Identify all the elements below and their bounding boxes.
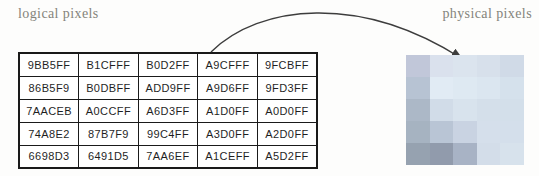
physical-pixel (477, 121, 501, 143)
pixel-value-cell: 6491D5 (79, 145, 139, 168)
physical-pixels-label: physical pixels (442, 6, 532, 22)
physical-pixel (430, 99, 454, 121)
pixel-value-cell: 99C4FF (138, 122, 198, 145)
physical-pixel (500, 121, 524, 143)
pixel-value-cell: 6698D3 (19, 145, 79, 168)
pixel-value-cell: 7AA6EF (138, 145, 198, 168)
table-row: 86B5F9B0DBFFADD9FFA9D6FF9FD3FF (19, 76, 317, 99)
table-row: 7AACEBA0CCFFA6D3FFA1D0FFA0D0FF (19, 99, 317, 122)
pixel-value-cell: A1D0FF (198, 99, 258, 122)
physical-pixel (406, 55, 430, 77)
logical-pixels-label: logical pixels (18, 6, 99, 22)
physical-pixel (453, 121, 477, 143)
physical-pixel (406, 121, 430, 143)
pixel-value-cell: ADD9FF (138, 76, 198, 99)
pixel-value-cell: 74A8E2 (19, 122, 79, 145)
pixel-value-cell: 87B7F9 (79, 122, 139, 145)
physical-pixel (500, 99, 524, 121)
physical-pixel (430, 121, 454, 143)
physical-pixel (430, 77, 454, 99)
pixel-value-cell: A2D0FF (257, 122, 317, 145)
physical-pixel (430, 143, 454, 165)
pixel-value-cell: A9D6FF (198, 76, 258, 99)
physical-pixel (453, 99, 477, 121)
physical-pixel (477, 99, 501, 121)
pixel-value-cell: A1CEFF (198, 145, 258, 168)
pixel-value-cell: A9CFFF (198, 53, 258, 76)
pixel-value-cell: A5D2FF (257, 145, 317, 168)
physical-pixel (453, 55, 477, 77)
pixel-value-cell: 9FD3FF (257, 76, 317, 99)
physical-pixel (477, 143, 501, 165)
pixel-value-cell: 7AACEB (19, 99, 79, 122)
physical-pixel (406, 99, 430, 121)
physical-pixels-image (406, 55, 524, 165)
table-row: 74A8E287B7F999C4FFA3D0FFA2D0FF (19, 122, 317, 145)
table-row: 9BB5FFB1CFFFB0D2FFA9CFFF9FCBFF (19, 53, 317, 76)
physical-pixel (477, 55, 501, 77)
pixel-value-cell: 9BB5FF (19, 53, 79, 76)
physical-pixel (500, 77, 524, 99)
physical-pixel (453, 143, 477, 165)
pixel-value-cell: B1CFFF (79, 53, 139, 76)
logical-pixels-table: 9BB5FFB1CFFFB0D2FFA9CFFF9FCBFF86B5F9B0DB… (18, 52, 318, 169)
physical-pixel (406, 77, 430, 99)
pixel-value-cell: 86B5F9 (19, 76, 79, 99)
pixel-value-cell: A0D0FF (257, 99, 317, 122)
physical-pixel (453, 77, 477, 99)
physical-pixel (500, 143, 524, 165)
table-row: 6698D36491D57AA6EFA1CEFFA5D2FF (19, 145, 317, 168)
pixel-value-cell: B0DBFF (79, 76, 139, 99)
pixel-value-cell: B0D2FF (138, 53, 198, 76)
physical-pixel (406, 143, 430, 165)
physical-pixel (430, 55, 454, 77)
pixel-value-cell: A6D3FF (138, 99, 198, 122)
physical-pixel (500, 55, 524, 77)
physical-pixel (477, 77, 501, 99)
pixel-value-cell: A3D0FF (198, 122, 258, 145)
pixel-value-cell: 9FCBFF (257, 53, 317, 76)
pixel-value-cell: A0CCFF (79, 99, 139, 122)
logical-pixels-table-body: 9BB5FFB1CFFFB0D2FFA9CFFF9FCBFF86B5F9B0DB… (19, 53, 317, 168)
